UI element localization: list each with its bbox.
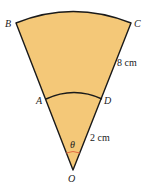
label-B: B (5, 18, 11, 29)
measurement-DC: 8 cm (117, 57, 137, 68)
label-O: O (68, 173, 75, 184)
label-C: C (134, 18, 141, 29)
label-A: A (35, 95, 43, 106)
label-theta: θ (70, 139, 75, 150)
measurement-OD: 2 cm (90, 132, 110, 143)
label-D: D (103, 95, 112, 106)
sector-diagram: B C A D O θ 8 cm 2 cm (0, 0, 147, 193)
